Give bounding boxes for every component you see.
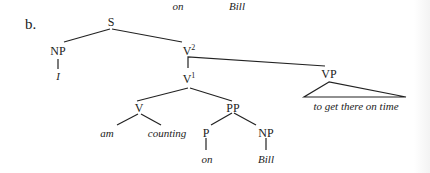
fragment-on: on <box>173 1 184 12</box>
node-v1: V1 <box>183 72 196 85</box>
node-s: S <box>108 16 115 28</box>
fragment-bill: Bill <box>229 1 245 12</box>
node-pp: PP <box>226 102 239 114</box>
leaf-i: I <box>56 71 60 82</box>
leaf-counting: counting <box>148 128 187 139</box>
node-p: P <box>203 127 210 139</box>
node-v2: V2 <box>183 44 196 57</box>
leaf-vp-text: to get there on time <box>313 101 398 112</box>
tree-lines <box>0 0 430 173</box>
leaf-am: am <box>100 128 113 139</box>
node-np-subject: NP <box>50 45 65 57</box>
node-v: V <box>135 102 144 114</box>
node-vp: VP <box>321 68 336 80</box>
node-np-object: NP <box>258 127 273 139</box>
example-label: b. <box>25 16 36 33</box>
leaf-on: on <box>202 154 213 165</box>
leaf-bill: Bill <box>258 154 274 165</box>
